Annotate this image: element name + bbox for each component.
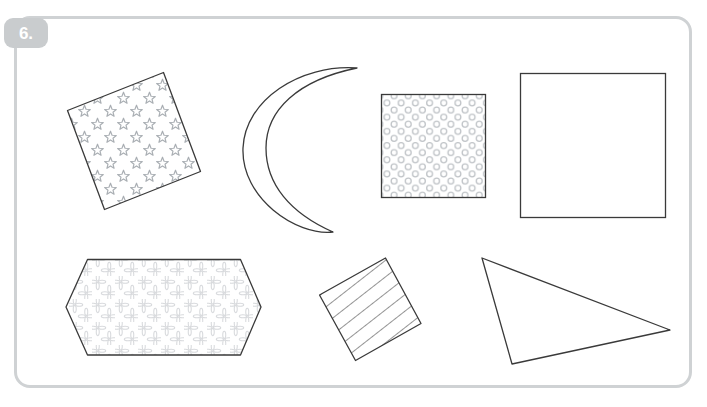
shape-hexagon-flower-pattern xyxy=(66,260,261,356)
shape-rotated-square-stripe-pattern xyxy=(320,258,422,361)
worksheet-page: 6. xyxy=(0,0,707,407)
shape-crescent-moon xyxy=(243,68,357,233)
shape-plain-square xyxy=(521,74,666,218)
shape-rotated-square-star-pattern xyxy=(68,73,201,210)
shape-scalene-triangle xyxy=(482,258,670,364)
shape-square-circle-pattern xyxy=(382,95,486,198)
shapes-canvas xyxy=(0,0,707,407)
